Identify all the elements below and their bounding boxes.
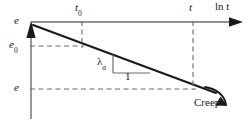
y-axis-arrowhead (26, 21, 35, 38)
y-tick-label-e0: e0 (9, 39, 18, 53)
x-tick-label-t: t (189, 2, 192, 13)
creep-label: Creep (194, 97, 220, 108)
slope-run-label: 1 (125, 71, 131, 82)
x-tick-label-t0: t0 (75, 2, 82, 16)
slope-subscript: α (102, 63, 106, 72)
creep-void-ratio-figure: e e0 e t0 t ln t λα 1 Creep (0, 0, 251, 125)
x-axis-label-lnt: ln t (215, 1, 229, 12)
x-tick-t0-subscript: 0 (78, 9, 82, 18)
y-tick-e0-subscript: 0 (14, 46, 18, 55)
compression-line (33, 25, 216, 93)
x-axis-arrowhead (229, 17, 243, 27)
y-axis-label-e: e (14, 15, 19, 26)
y-tick-label-e: e (14, 82, 19, 93)
slope-label-lambda: λα (97, 56, 106, 70)
